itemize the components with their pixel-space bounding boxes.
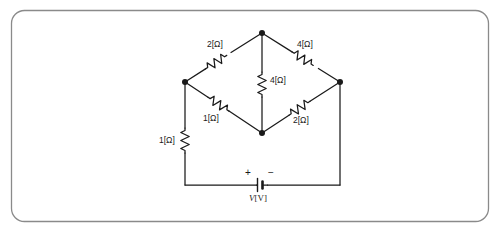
node-dot-right (337, 79, 343, 85)
source-label-unit: [V] (255, 193, 268, 203)
source-plus-sign: + (245, 168, 251, 178)
branch-top-left (185, 33, 262, 82)
figure-border (12, 11, 489, 222)
source-minus-sign: − (268, 168, 274, 178)
figure-canvas: 2[Ω] 4[Ω] 4[Ω] 1[Ω] 2[Ω] 1[Ω] + − V[V] (0, 0, 501, 234)
source-label: V[V] (249, 194, 267, 203)
node-dot-left (182, 79, 188, 85)
resistor-label-series-left: 1[Ω] (159, 136, 175, 145)
branch-series-left (181, 82, 189, 185)
resistor-label-bottom-right: 2[Ω] (293, 116, 309, 125)
node-dot-center (259, 130, 265, 136)
branch-bottom-right (262, 82, 340, 133)
battery-icon (257, 179, 268, 192)
resistor-label-top-left: 2[Ω] (207, 40, 223, 49)
resistor-label-bottom-left: 1[Ω] (203, 114, 219, 123)
node-dot-top (259, 30, 265, 36)
branch-bottom-left (185, 82, 262, 133)
branch-middle (258, 33, 266, 133)
resistor-label-top-right: 4[Ω] (297, 40, 313, 49)
resistor-label-middle: 4[Ω] (270, 76, 286, 85)
